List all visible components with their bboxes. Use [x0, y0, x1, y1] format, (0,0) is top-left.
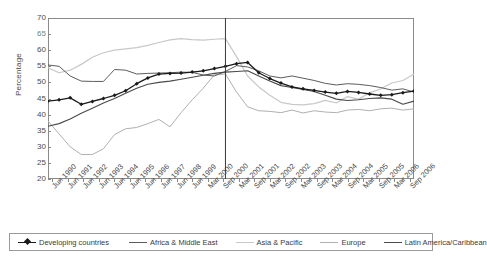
x-tick-mark-minor — [106, 179, 107, 181]
x-tick-mark-minor — [324, 179, 325, 181]
legend-item-label: Africa & Middle East — [150, 238, 218, 247]
legend-swatch — [384, 238, 402, 247]
legend-item-label: Developing countries — [39, 238, 109, 247]
y-tick-mark — [48, 18, 51, 19]
legend-item-label: Europe — [341, 238, 365, 247]
x-tick-mark-minor — [278, 179, 279, 181]
x-tick-mark-minor — [91, 179, 92, 181]
x-tick-mark-minor — [340, 179, 341, 181]
chart-legend: Developing countriesAfrica & Middle East… — [9, 233, 433, 251]
legend-item[interactable]: Europe — [320, 234, 365, 250]
x-tick-mark-minor — [356, 179, 357, 181]
x-tick-mark-minor — [60, 179, 61, 181]
x-tick-mark-minor — [153, 179, 154, 181]
x-tick-mark-minor — [138, 179, 139, 181]
x-tick-mark-minor — [169, 179, 170, 181]
chart-plot-area: Percentage 7065605550454035302520 Jun 19… — [0, 0, 442, 228]
x-tick-mark-minor — [309, 179, 310, 181]
legend-swatch — [236, 238, 254, 247]
y-tick-mark — [48, 66, 51, 67]
x-tick-mark-minor — [247, 179, 248, 181]
x-tick-mark-minor — [371, 179, 372, 181]
legend-swatch — [18, 238, 36, 247]
legend-item-label: Asia & Pacific — [257, 238, 303, 247]
x-tick-mark-minor — [387, 179, 388, 181]
x-tick-mark-minor — [262, 179, 263, 181]
y-tick-mark — [48, 163, 51, 164]
x-tick-mark-minor — [215, 179, 216, 181]
y-tick-mark — [48, 82, 51, 83]
legend-item-label: Latin America/Caribbean — [405, 238, 487, 247]
x-tick-mark-minor — [231, 179, 232, 181]
y-tick-mark — [48, 34, 51, 35]
y-tick-mark — [48, 50, 51, 51]
x-tick-mark-minor — [122, 179, 123, 181]
legend-swatch — [129, 238, 147, 247]
x-tick-mark-minor — [402, 179, 403, 181]
legend-item[interactable]: Asia & Pacific — [236, 234, 303, 250]
y-tick-mark — [48, 179, 51, 180]
legend-swatch — [320, 238, 338, 247]
legend-item[interactable]: Latin America/Caribbean — [384, 234, 487, 250]
y-tick-mark — [48, 115, 51, 116]
y-tick-mark — [48, 147, 51, 148]
y-tick-mark — [48, 131, 51, 132]
x-tick-mark-minor — [75, 179, 76, 181]
legend-item[interactable]: Africa & Middle East — [129, 234, 218, 250]
legend-item[interactable]: Developing countries — [18, 234, 109, 250]
x-tick-mark-minor — [184, 179, 185, 181]
y-tick-mark — [48, 99, 51, 100]
x-axis-tick-group: Jun 1990Jun 1991Jun 1992Jun 1993Jun 1994… — [0, 0, 442, 228]
x-tick-mark-minor — [200, 179, 201, 181]
x-tick-mark-minor — [293, 179, 294, 181]
